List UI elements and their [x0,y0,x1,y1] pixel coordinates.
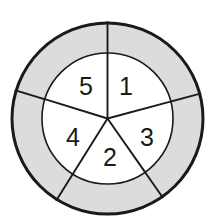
figure-root: 1 2 3 4 5 [0,0,216,224]
sector-label-5: 5 [79,72,93,100]
sector-label-3: 3 [140,123,154,151]
sector-label-4: 4 [66,123,80,151]
sector-label-2: 2 [103,143,117,171]
segmented-wheel-diagram: 1 2 3 4 5 [0,0,216,224]
sector-label-1: 1 [119,72,133,100]
